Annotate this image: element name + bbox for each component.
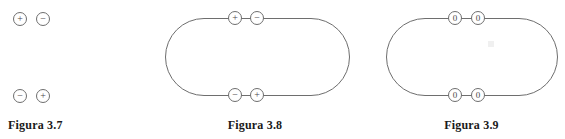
figure-caption-3-7: Figura 3.7 (8, 118, 63, 133)
figure-art-3-7: + − − + (0, 0, 120, 115)
figure-panel-3-7: + − − + Figura 3.7 (0, 0, 120, 139)
charge-token-bottom-right: + (36, 89, 50, 103)
charge-token-bottom-left: 0 (448, 88, 462, 102)
charge-token-top-left: 0 (448, 11, 462, 25)
charge-token-top-right: 0 (471, 11, 485, 25)
charge-token-bottom-left: − (13, 89, 27, 103)
scan-artifact-speck (488, 41, 494, 47)
charge-token-bottom-right: 0 (471, 88, 485, 102)
stadium-outline-3-9 (386, 18, 558, 96)
charge-token-top-left: + (13, 12, 27, 26)
figure-art-3-9: 0 0 0 0 (378, 0, 565, 115)
figure-art-3-8: + − − + (155, 0, 355, 115)
charge-token-bottom-left: − (228, 88, 242, 102)
figure-panel-3-9: 0 0 0 0 Figura 3.9 (378, 0, 565, 139)
figure-panel-3-8: + − − + Figura 3.8 (155, 0, 355, 139)
charge-token-top-right: − (36, 12, 50, 26)
stadium-outline-3-8 (165, 18, 350, 96)
charge-token-top-right: − (250, 11, 264, 25)
figure-caption-3-9: Figura 3.9 (378, 118, 565, 133)
charge-token-bottom-right: + (250, 88, 264, 102)
charge-token-top-left: + (228, 11, 242, 25)
figure-caption-3-8: Figura 3.8 (155, 118, 355, 133)
